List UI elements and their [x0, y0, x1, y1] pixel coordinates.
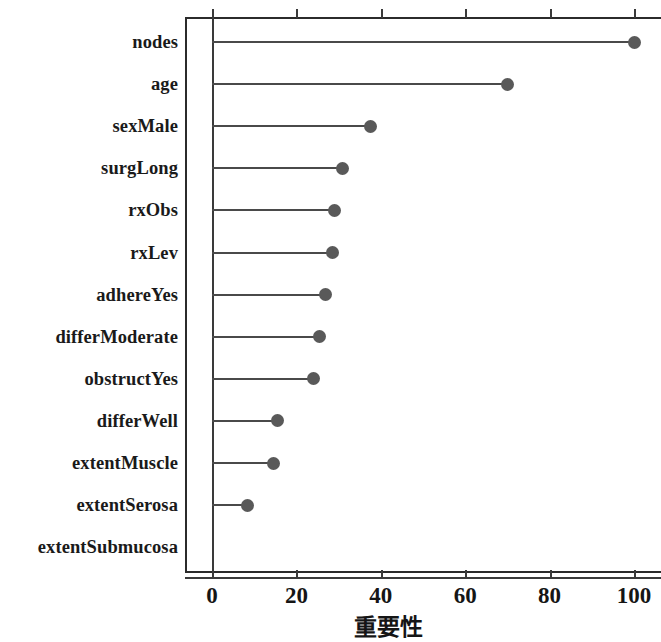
x-tick-top-20 — [296, 9, 298, 18]
chart-row: obstructYes — [0, 358, 661, 400]
x-axis-line — [185, 577, 661, 579]
chart-row: nodes — [0, 21, 661, 63]
category-label-nodes: nodes — [132, 21, 178, 63]
data-point-differWell[interactable] — [271, 414, 284, 427]
x-tick-label-0: 0 — [206, 583, 218, 609]
data-point-obstructYes[interactable] — [307, 372, 320, 385]
x-tick-top-60 — [465, 9, 467, 18]
data-point-extentMuscle[interactable] — [267, 457, 280, 470]
chart-row: rxObs — [0, 189, 661, 231]
chart-row: surgLong — [0, 147, 661, 189]
data-point-adhereYes[interactable] — [319, 288, 332, 301]
data-point-age[interactable] — [501, 78, 514, 91]
category-label-rxObs: rxObs — [128, 189, 178, 231]
x-tick-top-100 — [634, 9, 636, 18]
category-label-extentSerosa: extentSerosa — [76, 484, 178, 526]
data-point-rxObs[interactable] — [328, 204, 341, 217]
chart-row: age — [0, 63, 661, 105]
x-tick-label-80: 80 — [538, 583, 561, 609]
x-tick-40 — [381, 570, 383, 579]
chart-row: extentMuscle — [0, 442, 661, 484]
data-point-surgLong[interactable] — [336, 162, 349, 175]
stem-obstructYes — [212, 378, 313, 380]
stem-rxObs — [212, 209, 334, 211]
data-point-extentSerosa[interactable] — [241, 499, 254, 512]
chart-row: extentSerosa — [0, 484, 661, 526]
x-tick-100 — [634, 570, 636, 579]
category-label-rxLev: rxLev — [130, 232, 178, 274]
data-point-rxLev[interactable] — [326, 246, 339, 259]
x-tick-20 — [296, 570, 298, 579]
category-label-extentSubmucosa: extentSubmucosa — [38, 526, 178, 568]
category-label-surgLong: surgLong — [101, 147, 178, 189]
stem-age — [212, 83, 507, 85]
stem-extentMuscle — [212, 462, 273, 464]
data-point-sexMale[interactable] — [364, 120, 377, 133]
category-label-differModerate: differModerate — [55, 316, 178, 358]
x-tick-0 — [212, 570, 214, 579]
category-label-adhereYes: adhereYes — [96, 274, 178, 316]
stem-nodes — [212, 41, 634, 43]
category-label-age: age — [151, 63, 178, 105]
data-point-differModerate[interactable] — [313, 330, 326, 343]
chart-row: rxLev — [0, 232, 661, 274]
stem-differWell — [212, 420, 277, 422]
x-axis-title: 重要性 — [0, 608, 661, 642]
stem-adhereYes — [212, 294, 326, 296]
x-tick-label-20: 20 — [285, 583, 308, 609]
category-label-sexMale: sexMale — [113, 105, 178, 147]
chart-row: sexMale — [0, 105, 661, 147]
category-label-extentMuscle: extentMuscle — [72, 442, 178, 484]
chart-row: differWell — [0, 400, 661, 442]
x-tick-label-100: 100 — [617, 583, 652, 609]
stem-sexMale — [212, 125, 370, 127]
x-tick-60 — [465, 570, 467, 579]
data-point-nodes[interactable] — [628, 36, 641, 49]
chart-row: extentSubmucosa — [0, 526, 661, 568]
x-tick-80 — [550, 570, 552, 579]
stem-surgLong — [212, 167, 343, 169]
chart-row: differModerate — [0, 316, 661, 358]
x-tick-top-40 — [381, 9, 383, 18]
stem-rxLev — [212, 252, 332, 254]
x-tick-top-0 — [212, 9, 214, 18]
x-tick-label-40: 40 — [369, 583, 392, 609]
category-label-differWell: differWell — [97, 400, 178, 442]
category-label-obstructYes: obstructYes — [84, 358, 178, 400]
x-tick-top-80 — [550, 9, 552, 18]
chart-row: adhereYes — [0, 274, 661, 316]
x-tick-label-60: 60 — [454, 583, 477, 609]
stem-differModerate — [212, 336, 320, 338]
